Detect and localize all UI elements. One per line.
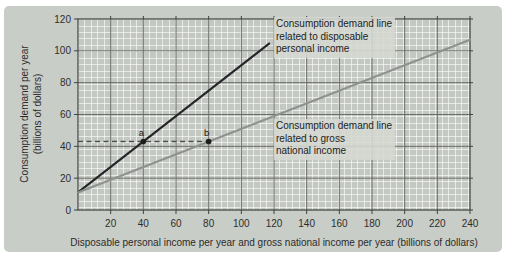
x-tick-label: 160	[331, 218, 348, 229]
point-marker-a	[141, 139, 147, 145]
annotation-gross-national-income-line: Consumption demand line related to gross…	[274, 119, 395, 160]
figure-stage: 2040608010012014016018020022024002040608…	[0, 0, 506, 263]
point-label-b: b	[204, 127, 209, 138]
x-tick-label: 40	[138, 218, 150, 229]
point-marker-b	[206, 139, 212, 145]
consumption-demand-chart: 2040608010012014016018020022024002040608…	[0, 0, 506, 263]
annotation-disposable-income-line: Consumption demand line related to dispo…	[274, 17, 395, 58]
point-label-a: a	[139, 127, 145, 138]
x-tick-label: 220	[429, 218, 446, 229]
y-tick-label: 120	[54, 14, 71, 25]
y-tick-label: 40	[60, 141, 72, 152]
x-tick-label: 240	[462, 218, 479, 229]
x-tick-label: 140	[298, 218, 315, 229]
x-tick-label: 200	[396, 218, 413, 229]
x-tick-label: 120	[266, 218, 283, 229]
x-tick-label: 20	[105, 218, 117, 229]
y-tick-label: 20	[60, 173, 72, 184]
series-line-disposable-income	[78, 44, 269, 193]
y-axis-title: Consumption demand per year (billions of…	[18, 45, 44, 182]
y-tick-label: 100	[54, 45, 71, 56]
y-tick-label: 80	[60, 77, 72, 88]
x-tick-label: 80	[203, 218, 215, 229]
x-tick-label: 180	[364, 218, 381, 229]
x-tick-label: 100	[233, 218, 250, 229]
y-tick-label: 0	[65, 205, 71, 216]
x-axis-title: Disposable personal income per year and …	[70, 237, 477, 248]
y-tick-label: 60	[60, 109, 72, 120]
x-tick-label: 60	[170, 218, 182, 229]
